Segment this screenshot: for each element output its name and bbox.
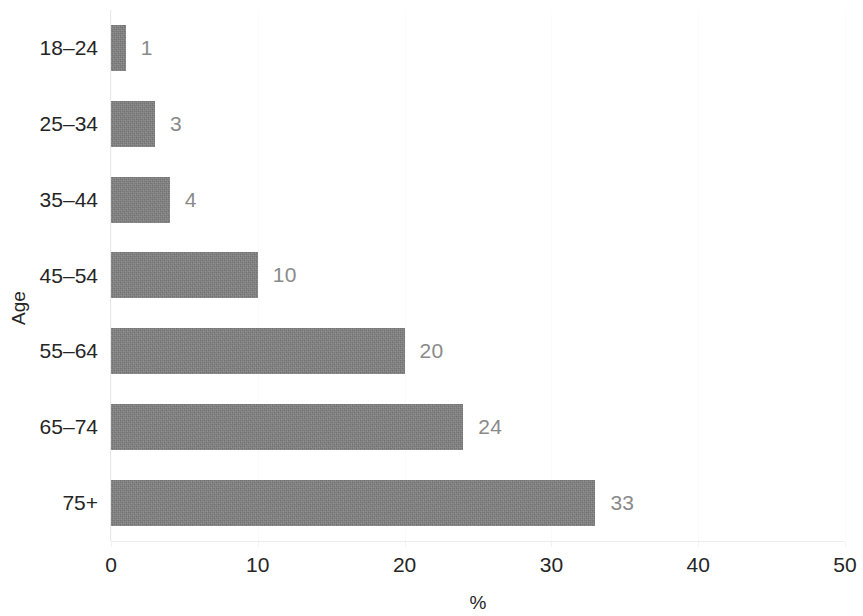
y-axis-tick-label: 55–64 [0, 339, 98, 363]
y-axis-tick-label: 18–24 [0, 36, 98, 60]
tick-mark-40 [698, 542, 699, 547]
y-axis-tick-label: 65–74 [0, 415, 98, 439]
bar-row: 3 [111, 86, 845, 162]
bar [111, 480, 595, 526]
x-axis-tick-label: 30 [540, 553, 563, 577]
bar-value-label: 33 [610, 491, 634, 515]
bar-value-label: 24 [478, 415, 502, 439]
bars-container: 13410202433 [111, 10, 845, 541]
bar [111, 25, 126, 71]
bar-row: 20 [111, 313, 845, 389]
bar-row: 10 [111, 238, 845, 314]
x-axis-tick-label: 10 [246, 553, 269, 577]
bar-row: 33 [111, 465, 845, 541]
bar-chart: 13410202433 18–2425–3435–4445–5455–6465–… [0, 0, 863, 616]
bar-row: 24 [111, 389, 845, 465]
bar [111, 252, 258, 298]
x-axis-tick-label: 20 [393, 553, 416, 577]
tick-mark-30 [551, 542, 552, 547]
y-axis-title: Age [8, 291, 30, 325]
tick-mark-50 [845, 542, 846, 547]
x-axis-line [111, 541, 845, 542]
bar [111, 404, 463, 450]
x-axis-tick-label: 40 [687, 553, 710, 577]
bar [111, 177, 170, 223]
bar [111, 328, 405, 374]
bar-row: 4 [111, 162, 845, 238]
x-axis-tick-label: 0 [105, 553, 117, 577]
y-axis-tick-label: 25–34 [0, 112, 98, 136]
gridline-x-50 [845, 10, 846, 541]
tick-mark-20 [405, 542, 406, 547]
bar-row: 1 [111, 10, 845, 86]
bar-value-label: 3 [170, 112, 182, 136]
bar-value-label: 1 [141, 36, 153, 60]
tick-mark-0 [111, 542, 112, 547]
x-axis-tick-label: 50 [833, 553, 856, 577]
x-axis-title: % [470, 592, 487, 614]
bar-value-label: 20 [420, 339, 444, 363]
bar-value-label: 4 [185, 188, 197, 212]
tick-mark-10 [258, 542, 259, 547]
y-axis-tick-label: 45–54 [0, 264, 98, 288]
bar-value-label: 10 [273, 263, 297, 287]
y-axis-tick-label: 35–44 [0, 188, 98, 212]
bar [111, 101, 155, 147]
y-axis-tick-label: 75+ [0, 491, 98, 515]
